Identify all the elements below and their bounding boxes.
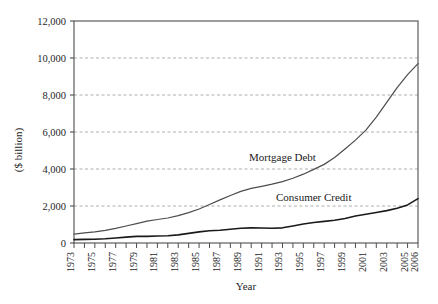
x-tick-label: 1973	[65, 252, 76, 272]
line-chart: 12,00010,0008,0006,0004,0002,0000 197319…	[0, 0, 438, 304]
x-tick-label: 1977	[107, 252, 118, 272]
x-tick-label: 1987	[211, 252, 222, 272]
grid-lines	[74, 58, 418, 206]
x-tick-label: 1991	[253, 252, 264, 272]
y-tick-label: 2,000	[42, 201, 66, 212]
y-tick-labels: 12,00010,0008,0006,0004,0002,0000	[37, 16, 66, 249]
x-tick-label: 1993	[273, 252, 284, 272]
x-axis	[74, 243, 418, 248]
x-tick-label: 1999	[336, 252, 347, 272]
y-tick-label: 10,000	[37, 53, 66, 64]
x-tick-label: 1983	[169, 252, 180, 272]
series-annotations: Mortgage DebtConsumer Credit	[249, 151, 351, 203]
x-tick-label: 1997	[315, 252, 326, 272]
series-line	[74, 64, 418, 235]
y-tick-label: 8,000	[42, 90, 66, 101]
x-tick-label: 1975	[86, 252, 97, 272]
y-tick-label: 0	[61, 238, 66, 249]
y-axis	[70, 21, 74, 243]
data-series	[74, 64, 418, 240]
x-tick-label: 1989	[232, 252, 243, 272]
series-label: Consumer Credit	[276, 191, 351, 203]
y-tick-label: 6,000	[42, 127, 66, 138]
x-tick-label: 1979	[128, 252, 139, 272]
x-tick-label: 1981	[148, 252, 159, 272]
y-axis-title: ($ billion)	[12, 128, 25, 173]
x-tick-label: 2006	[409, 252, 420, 272]
series-label: Mortgage Debt	[249, 151, 316, 163]
x-axis-title: Year	[236, 280, 257, 292]
series-line	[74, 199, 418, 240]
x-tick-label: 2005	[399, 252, 410, 272]
y-tick-label: 12,000	[37, 16, 66, 27]
chart-figure: 12,00010,0008,0006,0004,0002,0000 197319…	[0, 0, 438, 304]
y-tick-label: 4,000	[42, 164, 66, 175]
x-tick-label: 1985	[190, 252, 201, 272]
x-tick-label: 2003	[378, 252, 389, 272]
x-tick-labels: 1973197519771979198119831985198719891991…	[65, 252, 420, 272]
x-tick-label: 1995	[294, 252, 305, 272]
x-tick-label: 2001	[357, 252, 368, 272]
